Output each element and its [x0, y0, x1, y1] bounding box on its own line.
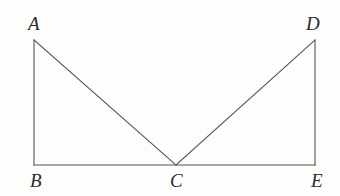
vertex-label-b: B: [30, 171, 42, 190]
vertex-label-d: D: [306, 14, 320, 33]
vertex-label-a: A: [28, 14, 40, 33]
vertex-label-c: C: [170, 171, 183, 190]
geometry-figure: A D B C E: [0, 0, 340, 196]
vertex-label-e: E: [311, 171, 323, 190]
segment-CD: [176, 40, 315, 165]
figure-canvas: [0, 0, 340, 196]
segment-AC: [34, 40, 176, 165]
